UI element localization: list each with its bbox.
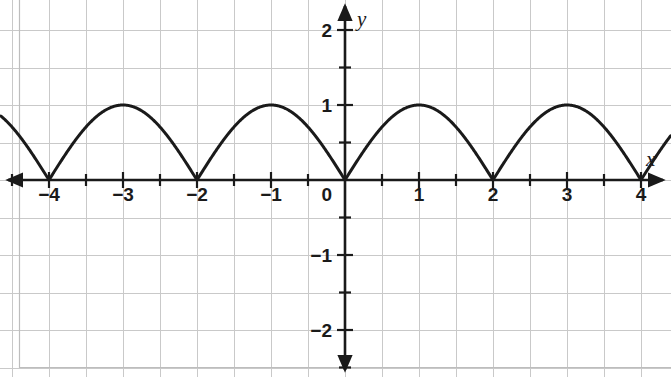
x-tick-label: 1 <box>414 184 425 205</box>
y-tick-label: −1 <box>310 245 332 266</box>
y-tick-label: −2 <box>310 320 332 341</box>
origin-label: 0 <box>321 184 332 205</box>
x-tick-label: 2 <box>488 184 499 205</box>
x-tick-label: 4 <box>636 184 647 205</box>
x-tick-label: −2 <box>186 184 208 205</box>
x-tick-label: −1 <box>260 184 282 205</box>
coordinate-plane-svg: −4−3−2−11234 21−1−2 0 y x <box>0 0 671 377</box>
x-tick-label: −4 <box>38 184 60 205</box>
graph-figure: −4−3−2−11234 21−1−2 0 y x <box>0 0 671 377</box>
x-axis-label: x <box>645 147 656 171</box>
x-tick-label: −3 <box>112 184 134 205</box>
y-tick-label: 2 <box>321 20 332 41</box>
x-tick-label: 3 <box>562 184 573 205</box>
y-tick-label: 1 <box>321 95 332 116</box>
y-axis-label: y <box>355 7 367 31</box>
